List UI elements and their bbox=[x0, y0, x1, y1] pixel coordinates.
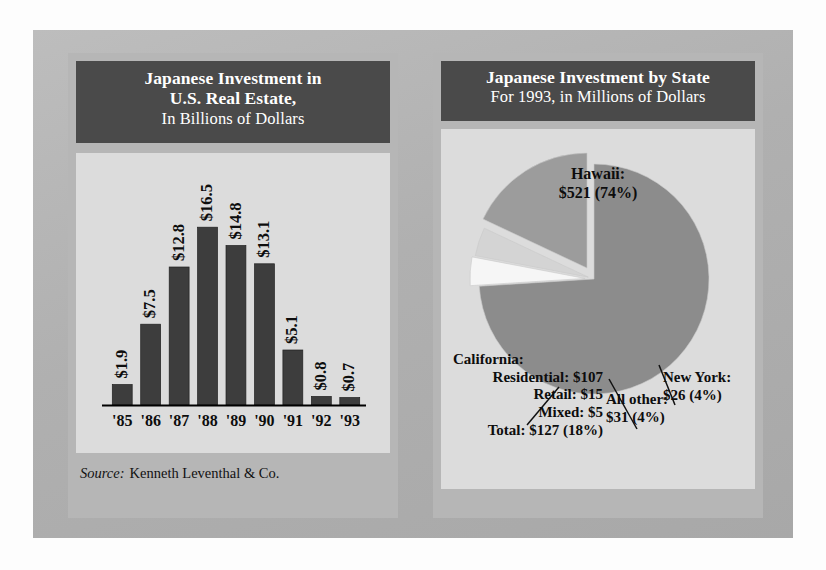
bar-value-label-87: $12.8 bbox=[169, 224, 188, 261]
bar-title-line3: In Billions of Dollars bbox=[80, 109, 386, 128]
x-tick-88: '88 bbox=[197, 412, 217, 429]
pie-title-line1: Japanese Investment by State bbox=[445, 67, 751, 87]
bar-chart-source: Source:Kenneth Leventhal & Co. bbox=[80, 465, 279, 482]
bar-value-label-89: $14.8 bbox=[226, 202, 245, 239]
x-tick-91: '91 bbox=[283, 412, 303, 429]
pie-label-new-york: New York: $26 (4%) bbox=[663, 369, 731, 404]
bar-value-label-93: $0.7 bbox=[339, 363, 358, 392]
bar-86 bbox=[141, 324, 161, 405]
bar-value-label-92: $0.8 bbox=[311, 362, 330, 391]
source-name: Kenneth Leventhal & Co. bbox=[130, 465, 280, 481]
panel-pie-chart: Japanese Investment by State For 1993, i… bbox=[433, 53, 763, 518]
allother-value: $31 (4%) bbox=[606, 409, 665, 425]
california-retail: Retail: $15 bbox=[445, 386, 603, 404]
newyork-value: $26 (4%) bbox=[663, 387, 722, 403]
bar-value-label-85: $1.9 bbox=[112, 350, 131, 379]
bar-value-label-91: $5.1 bbox=[282, 315, 301, 344]
bar-value-label-86: $7.5 bbox=[140, 289, 159, 318]
x-tick-85: '85 bbox=[112, 412, 132, 429]
bar-85 bbox=[112, 385, 132, 406]
hawaii-value: $521 (74%) bbox=[559, 184, 638, 201]
x-tick-89: '89 bbox=[226, 412, 246, 429]
pie-label-all-other: All other: $31 (4%) bbox=[606, 391, 668, 426]
bar-92 bbox=[311, 396, 331, 405]
source-label: Source: bbox=[80, 465, 125, 481]
figure-root: Japanese Investment in U.S. Real Estate,… bbox=[0, 0, 826, 570]
bar-88 bbox=[198, 227, 218, 405]
bar-chart-svg: $1.9$7.5$12.8$16.5$14.8$13.1$5.1$0.8$0.7… bbox=[76, 153, 390, 453]
california-name: California: bbox=[445, 351, 603, 369]
allother-name: All other: bbox=[606, 391, 668, 407]
bar-title-line1: Japanese Investment in bbox=[80, 68, 386, 88]
bar-91 bbox=[283, 350, 303, 405]
pie-title-line2: For 1993, in Millions of Dollars bbox=[445, 87, 751, 106]
x-tick-86: '86 bbox=[140, 412, 160, 429]
bar-chart-plot-area: $1.9$7.5$12.8$16.5$14.8$13.1$5.1$0.8$0.7… bbox=[76, 153, 390, 453]
hawaii-name: Hawaii: bbox=[571, 165, 625, 182]
bar-value-label-88: $16.5 bbox=[197, 184, 216, 221]
bar-87 bbox=[169, 267, 189, 405]
newyork-name: New York: bbox=[663, 369, 731, 385]
x-tick-93: '93 bbox=[340, 412, 360, 429]
x-tick-90: '90 bbox=[254, 412, 274, 429]
bar-chart-title-band: Japanese Investment in U.S. Real Estate,… bbox=[76, 61, 390, 143]
pie-label-california: California: Residential: $107 Retail: $1… bbox=[445, 351, 603, 439]
california-total: Total: $127 (18%) bbox=[445, 422, 603, 440]
pie-label-hawaii: Hawaii: $521 (74%) bbox=[441, 165, 755, 203]
bar-title-line2: U.S. Real Estate, bbox=[80, 88, 386, 108]
california-residential: Residential: $107 bbox=[445, 369, 603, 387]
california-mixed: Mixed: $5 bbox=[445, 404, 603, 422]
outer-frame: Japanese Investment in U.S. Real Estate,… bbox=[33, 30, 793, 538]
bar-value-label-90: $13.1 bbox=[254, 221, 273, 258]
x-axis-tick-labels: '85'86'87'88'89'90'91'92'93 bbox=[112, 412, 360, 429]
bar-90 bbox=[255, 264, 275, 405]
pie-chart-title-band: Japanese Investment by State For 1993, i… bbox=[441, 61, 755, 121]
bar-89 bbox=[226, 246, 246, 406]
x-tick-87: '87 bbox=[169, 412, 189, 429]
panel-bar-chart: Japanese Investment in U.S. Real Estate,… bbox=[68, 53, 398, 518]
pie-chart-plot-area: Hawaii: $521 (74%) California: Residenti… bbox=[441, 129, 755, 489]
x-tick-92: '92 bbox=[311, 412, 331, 429]
bar-93 bbox=[340, 398, 360, 406]
